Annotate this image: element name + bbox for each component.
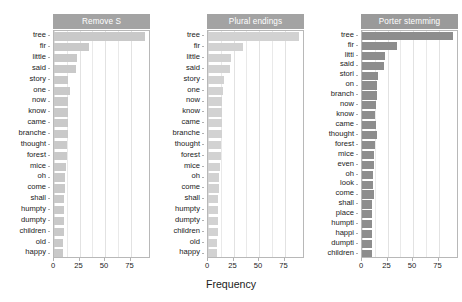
y-tick-label: came (335, 119, 354, 129)
y-tick-mark (202, 122, 205, 123)
y-tick-label: oh (346, 169, 354, 179)
bar (362, 200, 372, 208)
bar-row (54, 172, 149, 182)
y-tick-label: tree (33, 30, 46, 40)
x-axis-remove-s: 0255075 (53, 258, 150, 274)
x-tick-label: 0 (349, 261, 373, 270)
bar (362, 72, 378, 80)
bar (208, 163, 220, 171)
bar (208, 184, 219, 192)
y-tick-label: one (187, 85, 200, 95)
bar (54, 184, 65, 192)
bar-row (362, 120, 457, 130)
y-tick-label: thought (175, 139, 200, 149)
y-tick-mark (48, 90, 51, 91)
y-tick-mark (202, 57, 205, 58)
bar (362, 240, 372, 248)
bar (362, 101, 376, 109)
y-tick-label: even (338, 159, 354, 169)
y-tick-mark (356, 85, 359, 86)
y-tick-mark (202, 166, 205, 167)
y-tick-label: little (186, 52, 200, 62)
y-tick-label: children (173, 226, 200, 236)
y-tick-mark (202, 253, 205, 254)
y-tick-mark (48, 144, 51, 145)
plot-area-remove-s (53, 30, 150, 258)
bar-row (54, 53, 149, 63)
y-axis-labels-porter-stemming: treefirlittisaidstorionbranchnowknowcame… (308, 30, 358, 258)
bar-row (208, 53, 303, 63)
bar-row (208, 248, 303, 258)
y-tick-label: oh (38, 171, 46, 181)
bar (54, 54, 77, 62)
bar (208, 195, 218, 203)
bar-row (362, 70, 457, 80)
bar (54, 217, 64, 225)
y-tick-label: mice (184, 161, 200, 171)
bars-remove-s (54, 31, 149, 257)
bar (54, 76, 68, 84)
y-tick-label: know (336, 109, 354, 119)
y-tick-mark (356, 164, 359, 165)
y-tick-label: now (32, 95, 46, 105)
panel-row: Remove S treefirlittlesaidstoryonenowkno… (0, 0, 462, 272)
y-tick-mark (356, 45, 359, 46)
bar (362, 220, 372, 228)
bar-row (54, 248, 149, 258)
bar (54, 173, 65, 181)
y-tick-mark (48, 111, 51, 112)
bar (362, 32, 453, 40)
y-tick-mark (48, 79, 51, 80)
bar (54, 228, 64, 236)
y-tick-mark (356, 94, 359, 95)
x-axis-plural-endings: 0255075 (207, 258, 304, 274)
bar-row (362, 239, 457, 249)
y-tick-label: said (32, 63, 46, 73)
bar-row (208, 205, 303, 215)
bar (54, 32, 145, 40)
x-tick-label: 50 (246, 261, 270, 270)
x-tick-label: 0 (41, 261, 65, 270)
bar-row (54, 238, 149, 248)
bar-row (362, 60, 457, 70)
panel-title-porter-stemming: Porter stemming (361, 14, 458, 29)
bar (54, 43, 89, 51)
y-tick-label: happy (179, 247, 200, 257)
y-tick-label: shall (338, 198, 354, 208)
panel-porter-stemming: Porter stemming treefirlittisaidstorionb… (308, 0, 462, 272)
y-tick-label: branche (19, 128, 46, 138)
bar-row (54, 162, 149, 172)
bar-row (54, 96, 149, 106)
y-tick-mark (48, 209, 51, 210)
bar-row (362, 31, 457, 41)
y-tick-label: forest (27, 150, 46, 160)
y-tick-mark (356, 223, 359, 224)
y-tick-label: said (340, 59, 354, 69)
panel-remove-s: Remove S treefirlittlesaidstoryonenowkno… (0, 0, 154, 272)
y-tick-mark (202, 101, 205, 102)
bar-row (362, 90, 457, 100)
bar-row (208, 75, 303, 85)
bar-row (362, 189, 457, 199)
y-tick-label: forest (181, 150, 200, 160)
bar-row (208, 183, 303, 193)
bar (54, 108, 68, 116)
bar-row (208, 31, 303, 41)
y-tick-mark (356, 124, 359, 125)
y-tick-mark (202, 46, 205, 47)
bar (208, 228, 218, 236)
x-tick-label: 75 (118, 261, 142, 270)
y-tick-label: come (335, 188, 354, 198)
bar-row (362, 130, 457, 140)
x-axis-porter-stemming: 0255075 (361, 258, 458, 274)
bar (54, 141, 67, 149)
y-tick-mark (356, 194, 359, 195)
y-tick-mark (48, 231, 51, 232)
bars-porter-stemming (362, 31, 457, 257)
bar (208, 43, 243, 51)
bar-row (208, 64, 303, 74)
y-tick-label: came (27, 117, 46, 127)
y-tick-mark (356, 35, 359, 36)
bar-row (54, 151, 149, 161)
y-tick-mark (48, 198, 51, 199)
